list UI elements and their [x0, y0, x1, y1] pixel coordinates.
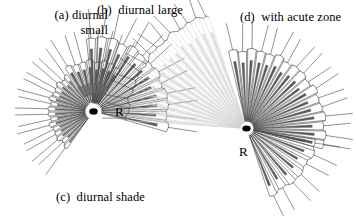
facet-seam [167, 35, 168, 40]
bristle [17, 125, 49, 134]
bristle [27, 72, 56, 88]
sector-diurnal-small [15, 49, 89, 175]
lens-cap [289, 179, 295, 184]
bristle [293, 182, 311, 200]
facet-seam [78, 64, 79, 65]
lens-cap [146, 62, 149, 67]
bristle [273, 195, 284, 216]
lens-cap [284, 61, 291, 65]
lens-cap [298, 171, 303, 177]
facet-seam [49, 106, 51, 107]
rhabdom-label-left: R [115, 104, 124, 120]
facet-seam [307, 158, 311, 160]
facet-seam [85, 61, 86, 63]
lens-cap [64, 146, 67, 149]
sector-lower-fan [249, 130, 340, 216]
caption-a-diurnal-small: (a) diurnalsmall [18, 8, 108, 38]
lens-cap [270, 193, 277, 196]
caption-b-diurnal-large-line1: (b) diurnal large [97, 3, 217, 18]
bristle [308, 67, 331, 82]
lens-cap [238, 51, 246, 52]
lens-cap [185, 22, 190, 25]
bristle [24, 79, 54, 94]
lens-cap [313, 139, 315, 147]
lens-cap [323, 122, 324, 130]
rhabdom-label-right: R [239, 144, 248, 160]
rhabdom-hub-left [89, 108, 97, 114]
lens-cap [86, 38, 95, 39]
lens-cap [48, 107, 49, 111]
bristle [318, 89, 344, 98]
caption-b-diurnal-large: (b) diurnal large [97, 3, 217, 18]
bristle [282, 187, 294, 210]
bristle [301, 174, 320, 192]
lens-cap [64, 75, 67, 78]
bristle [15, 114, 49, 115]
lens-cap [80, 62, 86, 64]
bristle [46, 147, 66, 174]
facet-seam [141, 67, 146, 69]
lens-cap [313, 85, 317, 92]
bristle [323, 145, 350, 149]
facet-seam [115, 66, 116, 68]
lens-cap [305, 79, 310, 86]
bristle [123, 19, 136, 45]
compound-eye-right [102, 0, 353, 216]
lens-cap [316, 95, 319, 103]
bristle [46, 49, 66, 76]
facet-seam [108, 63, 109, 64]
lens-cap [48, 112, 49, 116]
caption-a-diurnal-small-line2: small [18, 23, 108, 38]
lens-cap [65, 65, 70, 68]
bristle [168, 127, 197, 132]
facet-seam [322, 111, 324, 112]
lens-cap [229, 49, 237, 51]
lens-cap [312, 151, 315, 158]
lens-cap [51, 102, 52, 106]
lens-cap [276, 55, 284, 59]
caption-d-with-acute-zone: (d) with acute zone [240, 10, 356, 25]
bristle [270, 28, 277, 55]
facet-seam [256, 50, 257, 52]
bristle [118, 42, 135, 69]
bristle [26, 134, 55, 150]
bristle [51, 40, 68, 67]
rhabdom-wedge [250, 136, 271, 186]
lens-cap [62, 80, 65, 83]
bristle [261, 25, 268, 52]
caption-c-diurnal-shade-line1: (c) diurnal shade [56, 190, 186, 205]
lens-cap [178, 28, 183, 31]
bristle [17, 89, 49, 98]
lens-cap [325, 131, 327, 140]
caption-a-diurnal-small-line1: (a) diurnal [18, 8, 108, 23]
lens-cap [49, 123, 51, 127]
figure-root: (a) diurnalsmall(b) diurnal large(d) wit… [0, 0, 356, 216]
bristle [323, 123, 350, 126]
lens-cap [279, 185, 286, 189]
lens-cap [53, 92, 55, 96]
facet-seam [183, 25, 186, 28]
lens-cap [49, 96, 51, 100]
lens-cap [320, 103, 323, 111]
facet-cone-wall [138, 74, 241, 126]
lens-cap [109, 38, 118, 41]
facet-seam [145, 60, 146, 61]
facet-seam [299, 70, 300, 71]
caption-d-with-acute-zone-line1: (d) with acute zone [240, 10, 356, 25]
bristle [316, 73, 339, 88]
lens-cap [55, 132, 57, 135]
bristle [314, 155, 337, 166]
bristle [18, 119, 51, 126]
caption-c-diurnal-shade: (c) diurnal shade [56, 190, 186, 205]
bristle [65, 35, 75, 65]
bristle [287, 39, 300, 63]
lens-cap [166, 123, 168, 132]
lens-cap [62, 140, 65, 143]
facet-seam [190, 20, 193, 22]
facet-seam [162, 88, 165, 89]
facet-seam [49, 116, 51, 117]
bristle [24, 129, 54, 144]
lens-cap [257, 51, 265, 53]
bristle [280, 32, 293, 56]
bristle [315, 143, 340, 147]
